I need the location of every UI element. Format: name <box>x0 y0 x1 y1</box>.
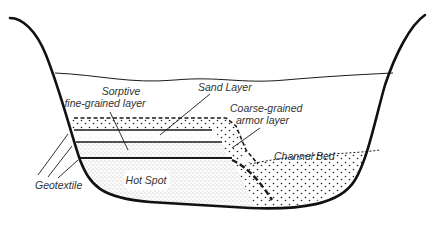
leader-geotextile-2 <box>48 146 72 177</box>
label-hot-spot: Hot Spot <box>126 174 168 186</box>
label-sorptive-line1: Sorptive <box>102 85 141 97</box>
label-sorptive-line2: fine-grained layer <box>64 97 146 109</box>
leader-geotextile-1 <box>38 134 68 175</box>
diagram-container: Sorptive fine-grained layer Sand Layer C… <box>0 0 440 226</box>
label-armor-line1: Coarse-grained <box>230 102 304 114</box>
water-surface-line <box>55 73 393 81</box>
label-channel-bed: Channel Bed <box>274 150 336 162</box>
sand-layer-fill <box>70 130 222 142</box>
leader-geotextile-3 <box>58 160 78 178</box>
channel-cross-section-diagram: Sorptive fine-grained layer Sand Layer C… <box>0 0 440 226</box>
sorptive-layer-fill <box>70 142 228 158</box>
label-sand-layer: Sand Layer <box>198 81 252 93</box>
label-geotextile: Geotextile <box>35 179 82 191</box>
label-armor-line2: armor layer <box>236 114 290 126</box>
